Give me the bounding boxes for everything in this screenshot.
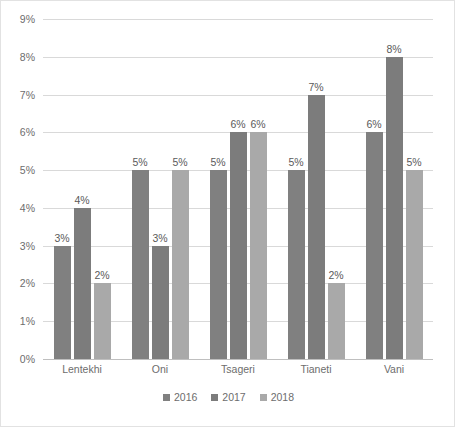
- bar-group: 3%4%2%: [43, 19, 121, 359]
- bar-item[interactable]: 6%: [230, 19, 247, 359]
- bar-item[interactable]: 4%: [74, 19, 91, 359]
- bar-item[interactable]: 5%: [288, 19, 305, 359]
- bar-value-label: 4%: [74, 194, 89, 206]
- bar-value-label: 5%: [406, 156, 421, 168]
- y-axis-tick-label: 8%: [3, 51, 35, 63]
- x-axis-tick-label: Lentekhi: [43, 363, 121, 375]
- y-axis-tick-label: 7%: [3, 89, 35, 101]
- bar-groups: 3%4%2%5%3%5%5%6%6%5%7%2%6%8%5%: [43, 19, 433, 359]
- bar-value-label: 2%: [94, 269, 109, 281]
- bar-item[interactable]: 2%: [328, 19, 345, 359]
- bar-item[interactable]: 7%: [308, 19, 325, 359]
- bar-item[interactable]: 5%: [406, 19, 423, 359]
- x-axis-tick-label: Vani: [355, 363, 433, 375]
- y-axis-tick-label: 2%: [3, 277, 35, 289]
- bar[interactable]: [386, 57, 403, 359]
- x-axis: LentekhiOniTsageriTianetiVani: [43, 363, 433, 375]
- bar-item[interactable]: 8%: [386, 19, 403, 359]
- bar[interactable]: [94, 283, 111, 359]
- legend-item-2017[interactable]: 2017: [211, 391, 245, 403]
- bar-value-label: 6%: [230, 118, 245, 130]
- x-axis-tick-label: Tianeti: [277, 363, 355, 375]
- bar-item[interactable]: 5%: [210, 19, 227, 359]
- bar-item[interactable]: 2%: [94, 19, 111, 359]
- bar[interactable]: [366, 132, 383, 359]
- bar-value-label: 6%: [366, 118, 381, 130]
- bar[interactable]: [152, 246, 169, 359]
- bar-item[interactable]: 5%: [132, 19, 149, 359]
- bar-value-label: 6%: [250, 118, 265, 130]
- legend-label: 2017: [222, 391, 245, 403]
- bar-item[interactable]: 6%: [250, 19, 267, 359]
- bar-item[interactable]: 6%: [366, 19, 383, 359]
- y-axis-tick-label: 0%: [3, 353, 35, 365]
- bar-item[interactable]: 3%: [54, 19, 71, 359]
- bar[interactable]: [210, 170, 227, 359]
- legend-swatch-icon: [211, 394, 218, 401]
- legend-swatch-icon: [163, 394, 170, 401]
- legend-label: 2016: [174, 391, 197, 403]
- bar-group: 5%7%2%: [277, 19, 355, 359]
- y-axis-tick-label: 5%: [3, 164, 35, 176]
- bar-value-label: 3%: [54, 232, 69, 244]
- bar-value-label: 5%: [172, 156, 187, 168]
- y-axis-tick-label: 6%: [3, 126, 35, 138]
- gridline: [43, 359, 433, 360]
- bar-value-label: 3%: [152, 232, 167, 244]
- bar[interactable]: [54, 246, 71, 359]
- bar-group: 6%8%5%: [355, 19, 433, 359]
- legend-swatch-icon: [260, 394, 267, 401]
- bar-item[interactable]: 5%: [172, 19, 189, 359]
- bar-value-label: 7%: [308, 81, 323, 93]
- bar-value-label: 2%: [328, 269, 343, 281]
- chart-legend: 201620172018: [1, 391, 455, 403]
- bar[interactable]: [406, 170, 423, 359]
- y-axis-tick-label: 3%: [3, 240, 35, 252]
- bar[interactable]: [172, 170, 189, 359]
- x-axis-tick-label: Oni: [121, 363, 199, 375]
- bar[interactable]: [250, 132, 267, 359]
- bar-group: 5%3%5%: [121, 19, 199, 359]
- bar[interactable]: [308, 95, 325, 359]
- bar-value-label: 5%: [288, 156, 303, 168]
- bar-item[interactable]: 3%: [152, 19, 169, 359]
- legend-item-2018[interactable]: 2018: [260, 391, 294, 403]
- x-axis-tick-label: Tsageri: [199, 363, 277, 375]
- legend-item-2016[interactable]: 2016: [163, 391, 197, 403]
- y-axis-tick-label: 4%: [3, 202, 35, 214]
- y-axis-tick-label: 9%: [3, 13, 35, 25]
- bar[interactable]: [74, 208, 91, 359]
- bar-value-label: 5%: [210, 156, 225, 168]
- bar[interactable]: [132, 170, 149, 359]
- y-axis-tick-label: 1%: [3, 315, 35, 327]
- bar[interactable]: [288, 170, 305, 359]
- bar-value-label: 5%: [132, 156, 147, 168]
- bar-value-label: 8%: [386, 43, 401, 55]
- chart-container: 0%1%2%3%4%5%6%7%8%9% 3%4%2%5%3%5%5%6%6%5…: [0, 0, 455, 427]
- bar[interactable]: [328, 283, 345, 359]
- bar[interactable]: [230, 132, 247, 359]
- legend-label: 2018: [271, 391, 294, 403]
- bar-group: 5%6%6%: [199, 19, 277, 359]
